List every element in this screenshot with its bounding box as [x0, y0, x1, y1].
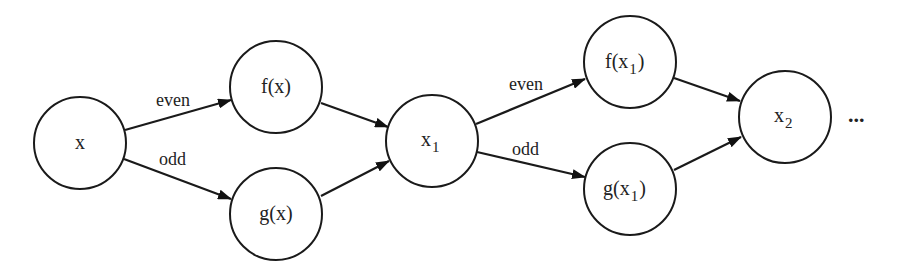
node-x1-base: x [421, 128, 431, 150]
node-fx1-suffix: ) [638, 50, 645, 73]
edge-gx1-to-x2 [674, 137, 741, 170]
node-x1-sub: 1 [432, 139, 440, 155]
node-gx1-suffix: ) [639, 177, 646, 200]
node-gx1-sub: 1 [631, 188, 639, 204]
node-gx1: g(x1) [584, 143, 676, 235]
node-fx-label: f(x) [261, 75, 291, 98]
flow-diagram: even odd even odd x f(x) g(x) x1 f(x1) g… [0, 0, 907, 273]
edge-label-even-2: even [509, 74, 543, 94]
node-fx1: f(x1) [584, 16, 676, 108]
node-x2: x2 [739, 71, 831, 163]
edge-label-even-1: even [156, 90, 190, 110]
node-x2-sub: 2 [785, 115, 793, 131]
node-x: x [34, 97, 126, 189]
continuation-ellipsis: ... [848, 102, 865, 127]
node-x1: x1 [386, 95, 478, 187]
edge-fx-to-x1 [321, 103, 388, 127]
node-fx1-base: f(x [605, 50, 628, 73]
edge-fx1-to-x2 [674, 78, 740, 101]
edge-label-odd-1: odd [159, 149, 186, 169]
node-fx: f(x) [230, 41, 322, 133]
node-fx1-sub: 1 [629, 61, 637, 77]
node-x-label: x [75, 131, 85, 153]
node-x2-base: x [774, 104, 784, 126]
node-gx: g(x) [230, 168, 322, 260]
edge-gx-to-x1 [321, 161, 389, 196]
node-gx-label: g(x) [259, 202, 292, 225]
edge-label-odd-2: odd [512, 139, 539, 159]
node-gx1-base: g(x [603, 177, 630, 200]
